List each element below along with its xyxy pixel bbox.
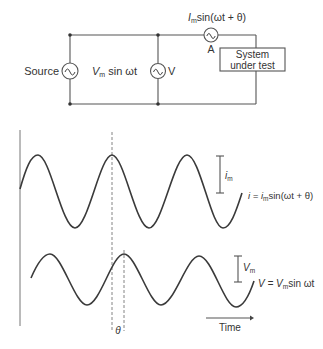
current-waveform — [20, 155, 242, 228]
voltage-waveform — [31, 254, 254, 307]
source-label: Source — [24, 65, 59, 77]
ac-meter-icon — [151, 64, 166, 79]
ammeter-expression: Imsin(ωt + θ) — [188, 11, 246, 24]
current-amplitude-label: im — [225, 170, 233, 182]
junction-dot — [68, 33, 72, 37]
voltage-amplitude-label: Vm — [243, 262, 255, 274]
ammeter-label: A — [207, 43, 214, 55]
voltage-equation: V = Vmsin ωt — [258, 278, 315, 290]
time-arrow-icon — [206, 316, 254, 321]
ac-source-icon — [62, 63, 78, 79]
phase-diagram: Source Vm sin ωt V A Imsin(ωt + θ) Syste… — [0, 0, 323, 349]
source-expression: Vm sin ωt — [92, 65, 137, 78]
junction-dot — [156, 102, 160, 106]
voltage-amplitude-bracket — [234, 256, 242, 282]
circuit: Source Vm sin ωt V A Imsin(ωt + θ) Syste… — [24, 11, 285, 106]
current-amplitude-bracket — [216, 156, 224, 193]
voltmeter-label: V — [168, 65, 176, 77]
junction-dot — [156, 33, 160, 37]
ac-meter-icon — [204, 28, 218, 42]
time-label: Time — [219, 322, 241, 333]
current-equation: i = imsin(ωt + θ) — [248, 190, 313, 202]
junction-dot — [68, 102, 72, 106]
system-box-line2: under test — [230, 60, 275, 71]
system-box-line1: System — [236, 49, 269, 60]
phase-angle-label: θ — [115, 325, 121, 336]
waveform-plot: θ im i = imsin(ωt + θ) Vm V = Vmsin ωt T… — [20, 130, 315, 336]
